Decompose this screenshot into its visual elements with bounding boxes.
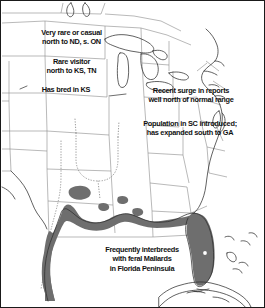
annotation-population-sc: Population in SC introduced; has expande… (130, 119, 250, 138)
lake-okeechobee (203, 251, 207, 255)
inland-patch-mississippi (132, 208, 143, 216)
inland-patch-louisiana (98, 203, 109, 211)
annotation-interbreeds-florida: Frequently interbreeds with feral Mallar… (88, 245, 197, 273)
annotation-has-bred-ks: Has bred in KS (26, 85, 105, 94)
annotation-rare-visitor: Rare visitor north to KS, TN (35, 57, 108, 76)
range-map-figure: Very rare or casual north to ND, s. ON R… (0, 0, 265, 308)
inland-patch-texas (69, 186, 91, 200)
annotation-very-rare-north: Very rare or casual north to ND, s. ON (28, 28, 115, 47)
inland-patch-arkansas (117, 196, 128, 204)
annotation-recent-surge: Recent surge in reports well north of no… (133, 86, 249, 105)
